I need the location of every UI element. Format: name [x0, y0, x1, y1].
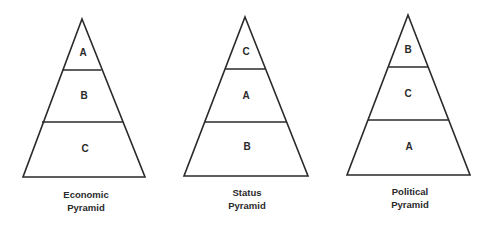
pyramid-title-line1: Political: [392, 186, 428, 197]
pyramid-title-line1: Status: [232, 187, 261, 198]
pyramid-title-line1: Economic: [63, 189, 108, 200]
pyramid-title-line2: Pyramid: [228, 200, 266, 211]
pyramids-diagram: A B C Economic Pyramid C A B Status Pyra…: [0, 0, 493, 228]
pyramid-title-line2: Pyramid: [67, 202, 105, 213]
layer-label-middle: B: [80, 90, 87, 101]
layer-label-top: C: [242, 46, 249, 57]
layer-label-bottom: C: [81, 143, 88, 154]
pyramid-title-line2: Pyramid: [391, 199, 429, 210]
layer-label-bottom: B: [243, 141, 250, 152]
status-pyramid: C A B Status Pyramid: [184, 17, 308, 211]
economic-pyramid: A B C Economic Pyramid: [23, 19, 145, 213]
layer-label-middle: A: [242, 90, 249, 101]
layer-label-bottom: A: [405, 141, 412, 152]
layer-label-middle: C: [404, 88, 411, 99]
layer-label-top: A: [79, 47, 86, 58]
layer-label-top: B: [404, 44, 411, 55]
political-pyramid: B C A Political Pyramid: [347, 15, 470, 210]
